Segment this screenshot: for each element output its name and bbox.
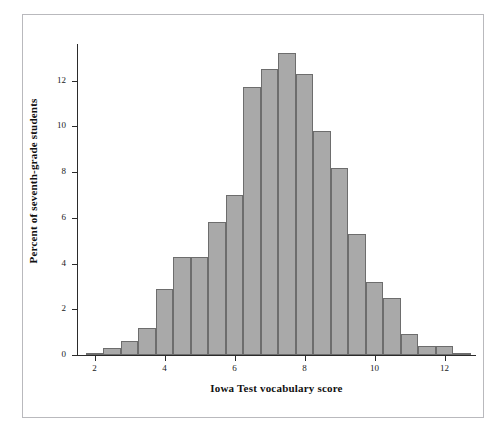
histogram-bar xyxy=(173,257,191,355)
x-tick-mark xyxy=(235,356,236,361)
y-tick-label: 0 xyxy=(50,349,66,359)
y-tick-label: 2 xyxy=(50,303,66,313)
histogram-bar xyxy=(86,353,104,355)
x-axis-line xyxy=(77,355,476,356)
y-tick-label: 8 xyxy=(50,166,66,176)
y-tick-mark xyxy=(72,355,77,356)
histogram-bar xyxy=(103,348,121,355)
x-axis-title: Iowa Test vocabulary score xyxy=(77,382,476,394)
y-axis-line xyxy=(77,44,78,356)
y-tick-mark xyxy=(72,81,77,82)
y-tick-mark xyxy=(72,172,77,173)
histogram-bar xyxy=(436,346,454,355)
y-tick-label: 4 xyxy=(50,258,66,268)
figure-page: 024681012 24681012 Percent of seventh-gr… xyxy=(0,0,498,432)
histogram-bar xyxy=(138,328,156,355)
x-tick-mark xyxy=(165,356,166,361)
histogram-bar xyxy=(156,289,174,355)
histogram-bar xyxy=(418,346,436,355)
histogram-bar xyxy=(401,334,419,355)
histogram-bar xyxy=(366,282,384,355)
y-tick-mark xyxy=(72,264,77,265)
histogram-bar xyxy=(313,131,331,355)
histogram-bar xyxy=(453,353,471,355)
y-tick-label: 6 xyxy=(50,212,66,222)
y-tick-mark xyxy=(72,218,77,219)
x-tick-label: 8 xyxy=(295,363,315,373)
histogram-bar xyxy=(226,195,244,355)
x-tick-label: 12 xyxy=(435,363,455,373)
y-tick-mark xyxy=(72,126,77,127)
histogram-bar xyxy=(121,341,139,355)
y-tick-mark xyxy=(72,309,77,310)
x-tick-mark xyxy=(95,356,96,361)
y-tick-label: 10 xyxy=(50,120,66,130)
x-tick-label: 4 xyxy=(155,363,175,373)
histogram-bar xyxy=(348,234,366,355)
histogram-bar xyxy=(296,74,314,355)
histogram-bar xyxy=(243,87,261,355)
x-tick-mark xyxy=(445,356,446,361)
histogram-bar xyxy=(261,69,279,355)
histogram-bar xyxy=(278,53,296,355)
histogram-plot: 024681012 24681012 Percent of seventh-gr… xyxy=(0,0,498,432)
y-axis-title: Percent of seventh-grade students xyxy=(27,81,39,281)
y-tick-label: 12 xyxy=(50,75,66,85)
x-tick-label: 10 xyxy=(365,363,385,373)
x-tick-mark xyxy=(305,356,306,361)
x-tick-mark xyxy=(375,356,376,361)
x-tick-label: 6 xyxy=(225,363,245,373)
histogram-bar xyxy=(331,168,349,356)
histogram-bar xyxy=(208,222,226,355)
histogram-bar xyxy=(383,298,401,355)
histogram-bar xyxy=(191,257,209,355)
x-tick-label: 2 xyxy=(85,363,105,373)
